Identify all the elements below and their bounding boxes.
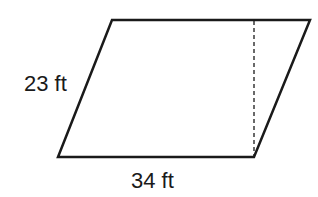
parallelogram-diagram: 23 ft 34 ft [0, 0, 318, 197]
side-label: 23 ft [24, 71, 67, 96]
parallelogram [58, 20, 310, 157]
base-label: 34 ft [131, 168, 174, 193]
